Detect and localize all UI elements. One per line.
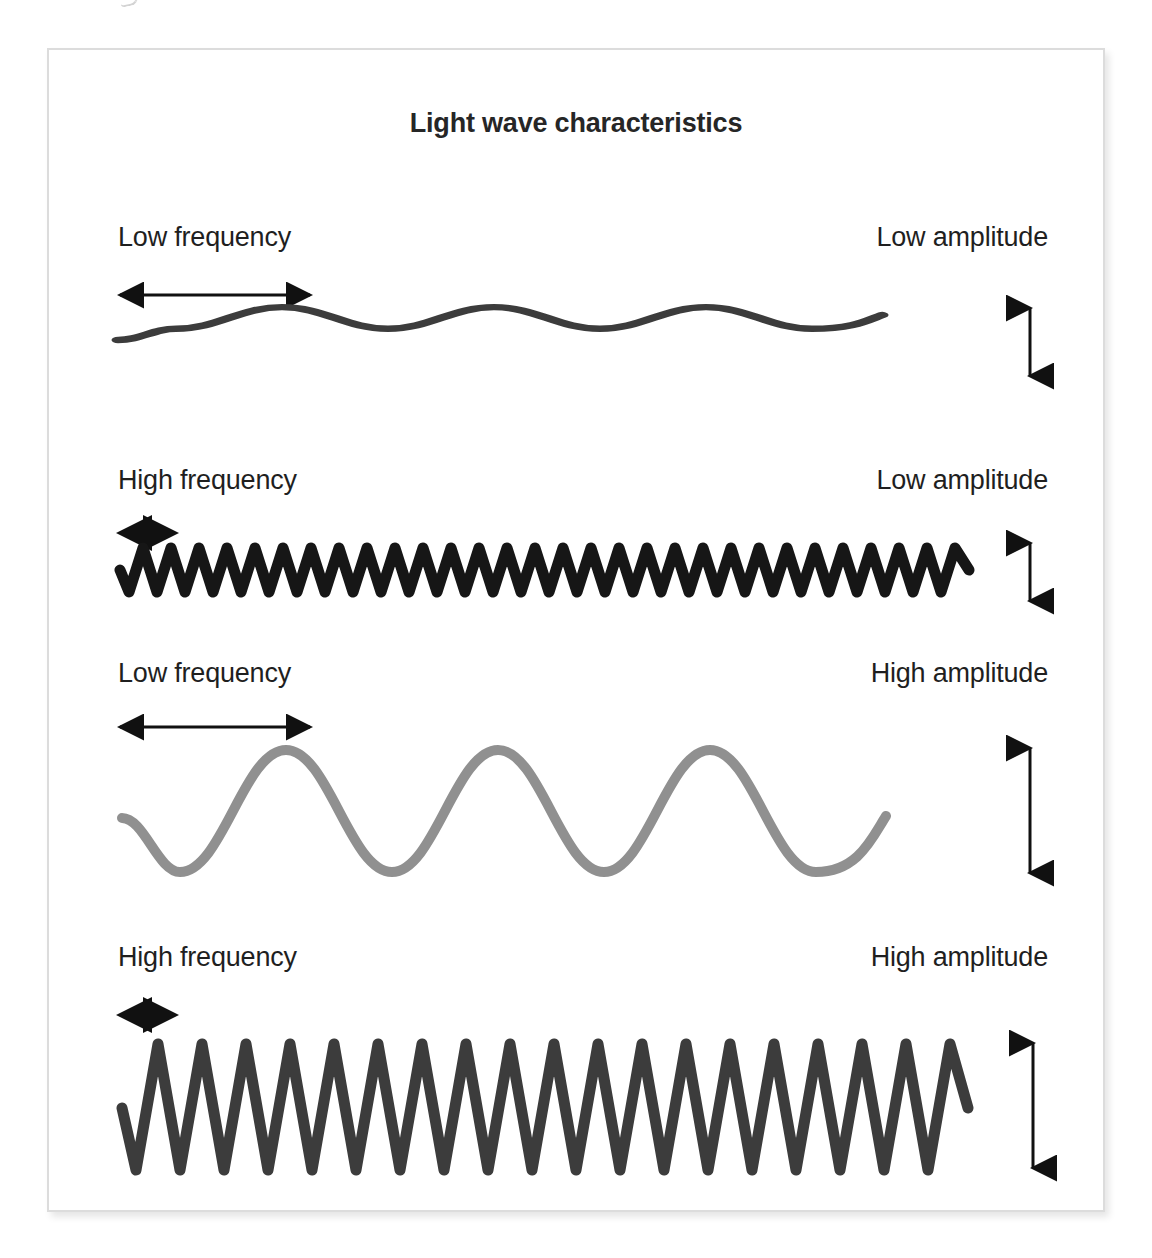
wave-path-row-4 bbox=[122, 1044, 968, 1170]
frequency-label-row-3: Low frequency bbox=[118, 658, 291, 689]
scan-artifact bbox=[119, 0, 139, 8]
wave-path-row-1 bbox=[118, 307, 882, 340]
wave-path-row-3 bbox=[122, 750, 886, 872]
waveform-row-4 bbox=[110, 1030, 990, 1180]
figure-title: Light wave characteristics bbox=[0, 108, 1152, 139]
amplitude-label-row-4: High amplitude bbox=[871, 942, 1048, 973]
amplitude-arrow-row-1 bbox=[1012, 298, 1048, 388]
wavelength-arrow-row-3 bbox=[110, 712, 330, 742]
amplitude-label-row-1: Low amplitude bbox=[876, 222, 1048, 253]
amplitude-arrow-row-2 bbox=[1012, 533, 1048, 613]
waveform-row-3 bbox=[110, 740, 990, 880]
frequency-label-row-1: Low frequency bbox=[118, 222, 291, 253]
frequency-label-row-2: High frequency bbox=[118, 465, 297, 496]
waveform-row-2 bbox=[110, 530, 990, 610]
amplitude-label-row-2: Low amplitude bbox=[876, 465, 1048, 496]
waveform-row-1 bbox=[110, 295, 990, 385]
amplitude-arrow-row-4 bbox=[1015, 1033, 1051, 1178]
wave-path-row-2 bbox=[120, 548, 969, 592]
amplitude-label-row-3: High amplitude bbox=[871, 658, 1048, 689]
wavelength-arrow-row-4 bbox=[110, 1000, 200, 1030]
amplitude-arrow-row-3 bbox=[1012, 738, 1048, 883]
figure-root: Light wave characteristics Low frequency… bbox=[0, 0, 1152, 1258]
frequency-label-row-4: High frequency bbox=[118, 942, 297, 973]
